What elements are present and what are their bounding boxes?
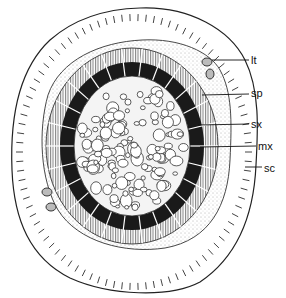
label-sp: sp: [251, 88, 263, 99]
section-drawing: [0, 0, 286, 298]
cross-section-diagram: lt sp sx mx sc: [0, 0, 286, 298]
label-sc: sc: [264, 163, 275, 174]
label-mx: mx: [258, 141, 273, 152]
label-sx: sx: [251, 119, 262, 130]
label-lt: lt: [251, 55, 257, 66]
